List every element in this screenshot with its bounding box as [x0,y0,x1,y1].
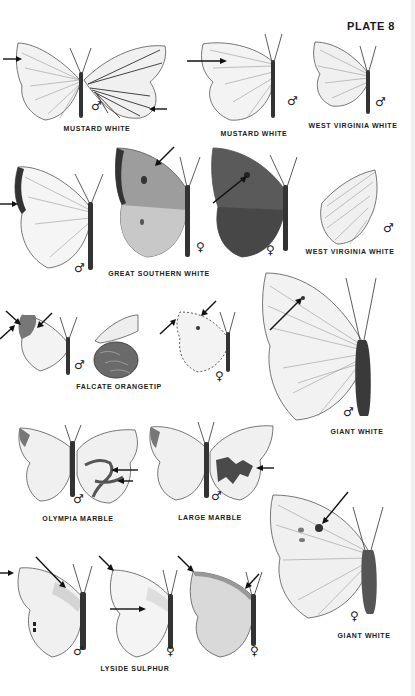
male-symbol: ♂ [211,490,222,502]
female-symbol: ♀ [196,241,205,253]
butterfly-mustard-white-male-2 [185,32,295,127]
male-symbol: ♂ [73,645,84,657]
plate-title: PLATE 8 [347,20,395,32]
male-symbol: ♂ [383,222,394,234]
butterfly-west-virginia-white-underside [315,168,380,248]
male-symbol: ♂ [74,359,85,371]
male-symbol: ♂ [74,262,85,274]
caption-giant-white-1: GIANT WHITE [331,428,384,435]
butterfly-giant-white-male [258,268,383,423]
butterfly-great-southern-white-female-dark [210,145,300,260]
male-symbol: ♂ [287,95,298,107]
female-symbol: ♀ [166,645,175,657]
caption-large-marble: LARGE MARBLE [178,514,242,521]
female-symbol: ♀ [266,244,275,256]
butterfly-giant-white-female [268,490,388,620]
butterfly-falcate-orangetip-female [160,298,240,383]
caption-olympia-marble: OLYMPIA MARBLE [42,515,113,522]
female-symbol: ♀ [350,610,359,622]
male-symbol: ♂ [375,96,386,108]
caption-great-southern-white: GREAT SOUTHERN WHITE [108,270,210,277]
caption-giant-white-2: GIANT WHITE [338,632,391,639]
caption-lyside-sulphur: LYSIDE SULPHUR [101,665,170,672]
caption-falcate-orangetip: FALCATE ORANGETIP [76,383,162,390]
female-symbol: ♀ [250,645,259,657]
caption-mustard-white-2: MUSTARD WHITE [221,130,288,137]
butterfly-mustard-white-male-1 [0,38,175,123]
male-symbol: ♂ [73,493,84,505]
male-symbol: ♂ [91,100,102,112]
caption-west-virginia-white-1: WEST VIRGINIA WHITE [309,122,398,129]
butterfly-falcate-orangetip-underside [90,313,140,378]
butterfly-falcate-orangetip-male [0,305,80,375]
butterfly-great-southern-white-female [112,145,207,260]
butterfly-great-southern-white-male [0,162,105,272]
caption-west-virginia-white-2: WEST VIRGINIA WHITE [306,248,395,255]
female-symbol: ♀ [215,370,224,382]
caption-mustard-white-1: MUSTARD WHITE [64,125,131,132]
butterfly-west-virginia-white-male [310,38,385,118]
male-symbol: ♂ [343,406,354,418]
page-edge [411,0,415,696]
